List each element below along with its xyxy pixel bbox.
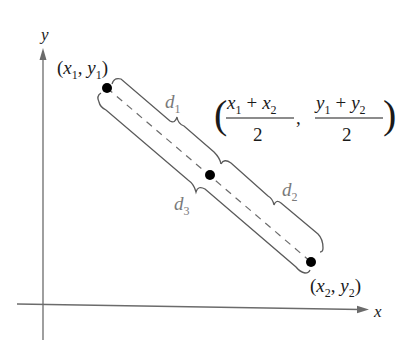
formula-right-numerator: y1+y2 [314,92,366,117]
formula-left-denominator: 2 [253,124,263,145]
point-p2 [306,257,316,267]
x-axis-label: x [373,302,382,321]
formula-open-paren: ( [214,92,227,137]
x-axis [17,304,360,310]
formula-right-denominator: 2 [342,124,352,145]
label-p1: (x1, y1) [57,57,108,82]
label-p2: (x2, y2) [310,275,361,300]
point-p1 [102,83,112,93]
x-axis-arrow-icon [357,306,369,313]
formula-close-paren: ) [383,92,396,137]
y-axis-arrow-icon [40,48,47,60]
point-midpoint [205,170,215,180]
brace-d3 [98,93,310,273]
label-d2: d2 [282,179,298,204]
label-d1: d1 [165,91,181,116]
label-d3: d3 [174,193,190,218]
formula-left-numerator: x1+x2 [226,92,277,117]
y-axis-label: y [39,25,49,44]
brace-d2 [221,161,323,252]
formula-separator: , [296,107,301,128]
midpoint-diagram: y x (x1, y1) (x2, y2) d1 d2 d3 ( x1+x2 2… [0,0,412,360]
midpoint-formula: ( x1+x2 2 , y1+y2 2 ) [214,92,396,145]
